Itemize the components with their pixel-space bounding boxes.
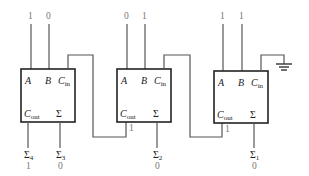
- port-b-label: B: [141, 75, 147, 86]
- sigma3-value: 0: [58, 161, 63, 171]
- ripple-carry-adder-diagram: 1 0 A B Cin Cout Σ Σ4 1 Σ3 0 0 1 A B Cin…: [0, 0, 309, 176]
- input-a-value: 1: [28, 11, 33, 21]
- port-a-label: A: [24, 75, 32, 86]
- input-b-value: 1: [239, 11, 244, 21]
- ground-icon: [276, 64, 292, 70]
- input-a-value: 1: [220, 11, 225, 21]
- full-adder-left: 1 0 A B Cin Cout Σ Σ4 1 Σ3 0: [21, 11, 75, 171]
- full-adder-middle: 0 1 A B Cin Cout Σ 1 Σ2 0: [117, 11, 171, 171]
- input-a-value: 0: [124, 11, 129, 21]
- carry-out-value: 1: [129, 123, 134, 133]
- sigma1-value: 0: [252, 161, 257, 171]
- port-b-label: B: [238, 77, 244, 88]
- port-a-label: A: [217, 77, 225, 88]
- sigma2-value: 0: [155, 161, 160, 171]
- full-adder-right: 1 1 A B Cin Cout Σ 1 Σ1 0: [214, 11, 292, 171]
- input-b-value: 1: [142, 11, 147, 21]
- port-sum-label: Σ: [153, 108, 159, 119]
- ground-wire: [261, 55, 284, 71]
- port-a-label: A: [120, 75, 128, 86]
- port-sum-label: Σ: [56, 108, 62, 119]
- port-sum-label: Σ: [250, 109, 256, 120]
- sigma4-value: 1: [26, 161, 31, 171]
- carry-out-value: 1: [225, 124, 230, 134]
- input-b-value: 0: [46, 11, 51, 21]
- port-b-label: B: [45, 75, 51, 86]
